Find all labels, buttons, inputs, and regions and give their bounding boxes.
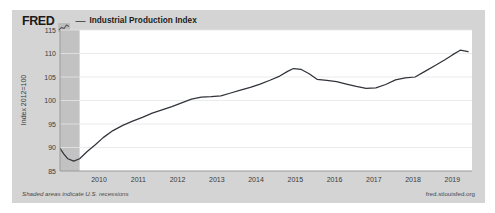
x-tick-2011: 2011 [131, 176, 146, 183]
y-tick-90: 90 [48, 144, 56, 151]
x-tick-2012: 2012 [170, 176, 186, 183]
x-tick-2013: 2013 [209, 176, 225, 183]
y-tick-95: 95 [48, 121, 56, 128]
y-tick-110: 110 [45, 50, 56, 57]
x-axis-tick-labels: 2010 2011 2012 2013 2014 2015 2016 2017 … [91, 176, 460, 183]
y-tick-105: 105 [44, 74, 56, 81]
x-tick-2017: 2017 [366, 176, 382, 183]
fred-chart-card: FRED — Industrial Production Index [12, 10, 485, 203]
y-tick-115: 115 [45, 27, 56, 34]
x-tick-2018: 2018 [405, 176, 421, 183]
plot-area: 115 110 105 100 95 90 85 Index 2012=100 … [12, 10, 485, 203]
chart-svg: 115 110 105 100 95 90 85 Index 2012=100 … [12, 10, 485, 203]
source-url[interactable]: fred.stlouisfed.org [426, 190, 476, 197]
y-tick-85: 85 [48, 168, 56, 175]
y-axis-tick-labels: 115 110 105 100 95 90 85 [44, 27, 56, 175]
x-tick-2019: 2019 [445, 176, 461, 183]
y-axis-title: Index 2012=100 [20, 75, 27, 126]
x-tick-2016: 2016 [327, 176, 343, 183]
recession-footnote: Shaded areas indicate U.S. recessions [22, 190, 129, 197]
x-tick-2010: 2010 [91, 176, 107, 183]
y-tick-100: 100 [44, 97, 56, 104]
x-tick-2014: 2014 [248, 176, 264, 183]
x-tick-2015: 2015 [288, 176, 304, 183]
